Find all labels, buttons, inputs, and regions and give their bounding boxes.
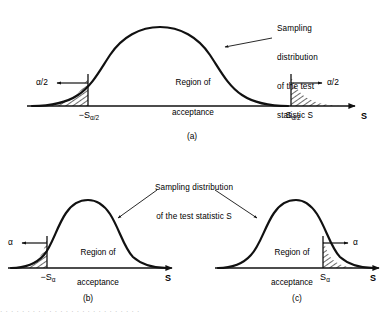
panel-a-annotation-line-3: of the test	[277, 82, 318, 92]
panel-a-left-tick-label: −Sα/2	[66, 110, 112, 121]
panel-b-region-line-1: Region of	[58, 248, 138, 258]
panel-a-left-tick-subscript: α/2	[90, 114, 99, 121]
panel-c-caption: (c)	[271, 294, 323, 304]
shared-annotation-line-2: of the test statistic S	[114, 212, 274, 222]
panel-a-annotation-line-1: Sampling	[277, 24, 318, 34]
panel-c-tick-label: Sα	[308, 272, 342, 283]
panel-b-caption: (b)	[62, 294, 114, 304]
panel-a-left-alpha-label: α/2	[36, 78, 48, 88]
panel-c-region-line-1: Region of	[252, 248, 332, 258]
panel-a-axis-label: S	[361, 111, 367, 122]
panel-b-region-line-2: acceptance	[58, 278, 138, 288]
panel-b-tick-label: −Sα	[29, 272, 67, 283]
shared-annotation-line-1: Sampling distribution	[114, 183, 274, 193]
panel-a-region-of-acceptance-label: Region of acceptance	[150, 58, 236, 138]
shared-annotation: Sampling distribution of the test statis…	[114, 164, 274, 241]
panel-c-tick-subscript: α	[326, 276, 330, 283]
panel-a-region-line-1: Region of	[150, 78, 236, 88]
panel-b-tick-subscript: α	[52, 276, 56, 283]
panel-c-axis-label: S	[370, 273, 376, 284]
panel-a-region-line-2: acceptance	[150, 108, 236, 118]
panel-a-annotation-line-2: distribution	[277, 53, 318, 63]
page-bleed-text: · · · · · · · · · · · · · · · · · · · · …	[0, 308, 387, 316]
panel-b-axis-label: S	[165, 273, 171, 284]
panel-a-right-alpha-label: α/2	[327, 78, 339, 88]
panel-a-caption: (a)	[166, 132, 218, 142]
panel-b-tick-base: −S	[40, 272, 51, 282]
panel-a-left-tick-base: −S	[79, 110, 90, 120]
panel-a-right-tick-label: Sα/2	[272, 110, 314, 121]
panel-c-alpha-label: α	[353, 238, 358, 248]
panel-a-right-tick-subscript: α/2	[291, 114, 300, 121]
panel-b-alpha-label: α	[8, 238, 13, 248]
panel-a-annotation-leader	[225, 38, 272, 47]
statistics-figure: Sampling distribution of the test statis…	[0, 0, 387, 316]
